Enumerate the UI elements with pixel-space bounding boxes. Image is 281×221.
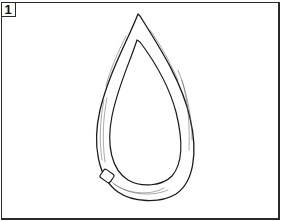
inner-outline: [110, 40, 181, 185]
hatching: [100, 30, 192, 194]
teardrop-loop-illustration: [0, 0, 281, 221]
